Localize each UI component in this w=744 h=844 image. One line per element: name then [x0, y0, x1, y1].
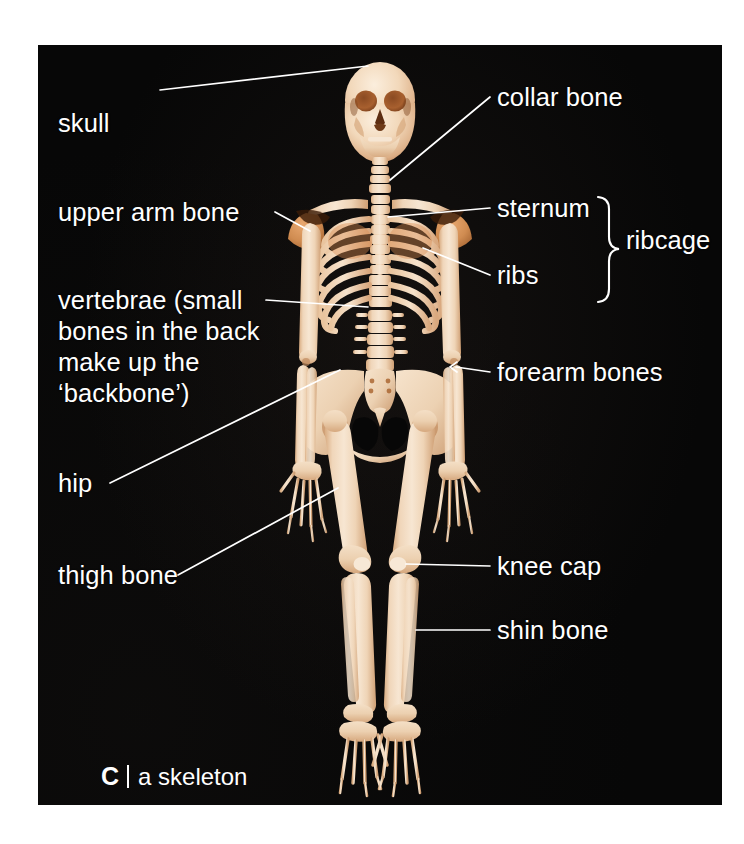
- figure-canvas: skull upper arm bone vertebrae (small bo…: [0, 0, 744, 844]
- photo-panel: skull upper arm bone vertebrae (small bo…: [38, 45, 722, 805]
- label-skull: skull: [58, 108, 110, 139]
- leader-sternum: [388, 208, 490, 217]
- label-sternum: sternum: [497, 193, 590, 224]
- label-ribcage: ribcage: [626, 225, 710, 256]
- label-vertebrae: vertebrae (small bones in the back make …: [58, 285, 308, 409]
- label-thigh-bone: thigh bone: [58, 560, 178, 591]
- label-ribs: ribs: [497, 260, 539, 291]
- leader-upper-arm-bone: [275, 212, 310, 231]
- label-knee-cap: knee cap: [497, 551, 601, 582]
- figure-caption: C a skeleton: [101, 762, 247, 791]
- label-upper-arm-bone: upper arm bone: [58, 197, 239, 228]
- caption-letter: C: [101, 762, 119, 791]
- caption-text: a skeleton: [138, 763, 247, 791]
- leader-ribs: [423, 248, 490, 275]
- leader-collar-bone: [390, 97, 490, 180]
- leader-knee-cap: [406, 564, 490, 566]
- caption-separator: [127, 765, 129, 788]
- label-shin-bone: shin bone: [497, 615, 609, 646]
- label-forearm-bones: forearm bones: [497, 357, 663, 388]
- label-collar-bone: collar bone: [497, 82, 623, 113]
- leader-skull: [160, 66, 368, 90]
- leader-forearm-bones: [456, 367, 490, 372]
- leader-lines: [38, 45, 722, 805]
- ribcage-brace: [598, 197, 619, 302]
- leader-thigh-bone: [178, 488, 338, 575]
- label-hip: hip: [58, 468, 92, 499]
